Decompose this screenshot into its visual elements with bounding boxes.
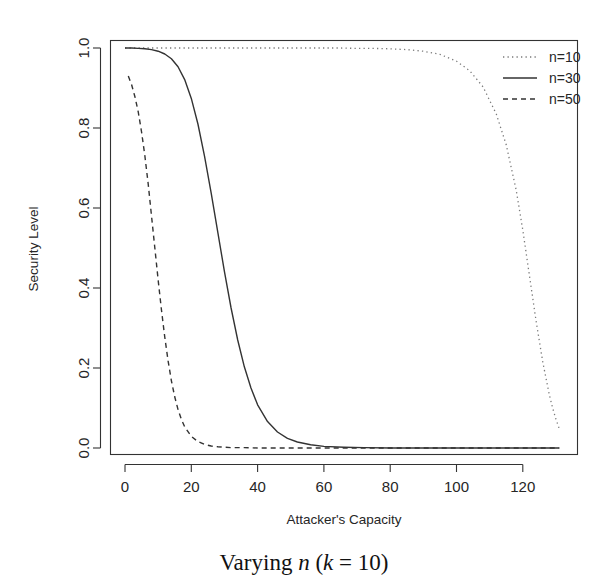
x-tick-label: 120: [510, 478, 535, 495]
series-line-n-50: [128, 76, 559, 448]
y-tick-label: 0.0: [75, 438, 92, 459]
y-tick-label: 0.4: [75, 278, 92, 299]
x-tick-label: 0: [121, 478, 129, 495]
caption-suffix: = 10): [333, 550, 388, 575]
series-line-n-10: [125, 48, 559, 429]
chart-legend: n=10n=30n=50: [503, 49, 581, 107]
y-tick-label: 1.0: [75, 38, 92, 59]
caption-mid: (: [310, 550, 323, 575]
x-tick-label: 100: [444, 478, 469, 495]
x-tick-label: 60: [316, 478, 333, 495]
legend-label-n-10: n=10: [549, 49, 581, 65]
y-axis-title: Security Level: [26, 207, 41, 292]
caption-var-n: n: [298, 550, 310, 575]
x-tick-label: 40: [249, 478, 266, 495]
legend-label-n-30: n=30: [549, 70, 581, 86]
x-axis: 020406080100120: [121, 465, 535, 496]
figure-container: 0.00.20.40.60.81.0 020406080100120 Secur…: [0, 0, 609, 585]
y-tick-label: 0.8: [75, 118, 92, 139]
series-line-n-30: [125, 48, 559, 448]
y-axis: 0.00.20.40.60.81.0: [75, 38, 101, 459]
y-tick-label: 0.6: [75, 198, 92, 219]
figure-caption: Varying n (k = 10): [220, 550, 389, 575]
y-tick-label: 0.2: [75, 358, 92, 379]
chart-svg: 0.00.20.40.60.81.0 020406080100120 Secur…: [0, 0, 609, 585]
x-tick-label: 80: [382, 478, 399, 495]
legend-label-n-50: n=50: [549, 91, 581, 107]
plot-frame: [111, 41, 578, 455]
series-layer: [125, 48, 559, 448]
x-tick-label: 20: [183, 478, 200, 495]
caption-prefix: Varying: [220, 550, 299, 575]
x-axis-title: Attacker's Capacity: [286, 512, 401, 527]
